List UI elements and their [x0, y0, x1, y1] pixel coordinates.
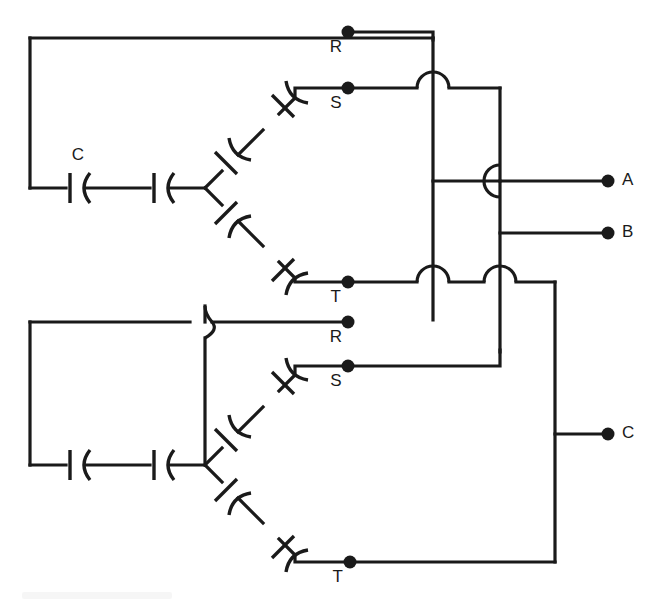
label-lower-phase-t: T — [333, 567, 344, 586]
cap-plate-straight — [272, 372, 294, 394]
label-upper-phase-t: T — [331, 287, 342, 306]
label-lower-phase-s: S — [330, 371, 342, 390]
capacitor-lower-t-1 — [215, 479, 251, 515]
label-upper-phase-s: S — [330, 93, 342, 112]
upper-capacitor-bank — [30, 38, 433, 295]
node-dot-upper-r — [342, 26, 355, 39]
lower-s-diag-seg-a — [205, 448, 222, 465]
cap-plate-curved — [286, 273, 308, 295]
label-output-c: C — [622, 423, 635, 442]
node-dot-output-b — [602, 227, 615, 240]
lower-s-run — [348, 350, 500, 366]
lower-bank-phase-s-branch — [205, 366, 348, 465]
node-dot-lower-r — [342, 316, 355, 329]
upper-bank-phase-t-branch — [205, 188, 348, 282]
upper-bank-phase-s-branch — [205, 88, 348, 188]
upper-bank-phase-r-branch — [30, 38, 433, 188]
cap-plate-curved — [229, 138, 251, 160]
cap-plate-straight — [215, 429, 237, 451]
node-dot-output-a — [602, 175, 615, 188]
cap-plate-curved — [229, 493, 251, 515]
label-output-b: B — [622, 222, 634, 241]
lower-bank-phase-t-branch — [205, 465, 350, 562]
cap-plate-straight — [215, 202, 237, 224]
label-bank1-capacitor: C — [72, 145, 85, 164]
terminal-node-dots — [342, 26, 615, 569]
schematic-canvas: C R S T R S T A B C — [0, 0, 660, 607]
lower-t-diag-seg-a — [205, 465, 222, 482]
capacitor-lower-s-1 — [215, 415, 251, 451]
cap-plate-straight — [272, 536, 294, 558]
cap-plate-curved — [229, 216, 251, 238]
lower-bank-phase-r-branch — [30, 306, 348, 465]
cap-plate-straight — [272, 95, 294, 117]
label-output-a: A — [622, 170, 634, 189]
upper-s-diag-seg-b — [238, 130, 263, 155]
lower-t-diag-seg-b — [238, 498, 263, 523]
scan-artifact — [22, 592, 172, 599]
node-dot-lower-t — [344, 556, 357, 569]
cap-plate-curved — [229, 415, 251, 437]
capacitor-upper-s-1 — [215, 138, 251, 174]
interconnect-bus-network — [348, 32, 604, 562]
upper-s-diag-seg-a — [205, 171, 222, 188]
node-dot-output-c — [602, 428, 615, 441]
upper-t-diag-seg-a — [205, 188, 222, 205]
capacitor-upper-t-2 — [272, 259, 308, 295]
node-dot-lower-s — [342, 360, 355, 373]
cap-plate-straight — [215, 479, 237, 501]
schematic-text-labels: C R S T R S T A B C — [72, 37, 635, 586]
cap-plate-curved — [286, 81, 308, 103]
lower-capacitor-bank — [30, 306, 350, 572]
capacitor-lower-t-2 — [272, 536, 308, 572]
label-lower-phase-r: R — [330, 327, 343, 346]
node-dot-upper-t — [342, 276, 355, 289]
node-dot-upper-s — [342, 82, 355, 95]
capacitor-upper-t-1 — [215, 202, 251, 238]
cap-plate-straight — [272, 259, 294, 281]
label-upper-phase-r: R — [330, 37, 343, 56]
lower-s-diag-seg-b — [238, 407, 263, 432]
circuit-schematic-svg: C R S T R S T A B C — [0, 0, 660, 607]
cap-plate-curved — [286, 358, 308, 380]
cap-plate-straight — [215, 152, 237, 174]
upper-t-diag-seg-b — [238, 221, 263, 246]
capacitor-lower-s-2 — [272, 358, 308, 394]
